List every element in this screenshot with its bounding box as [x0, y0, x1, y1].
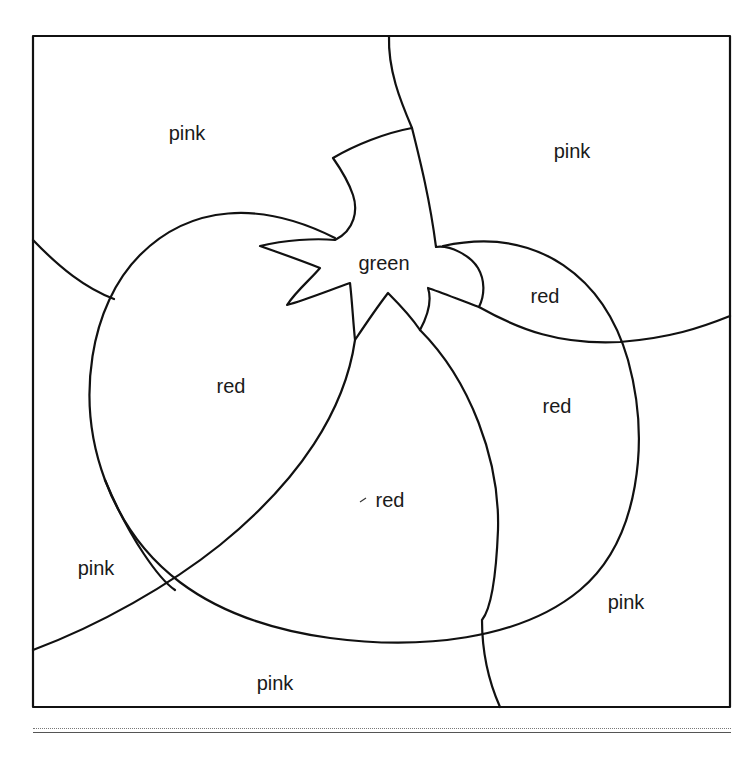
dotted-rule	[33, 728, 731, 729]
stem-calyx	[260, 128, 483, 340]
coloring-page: pink pink green red red red red pink pin…	[0, 0, 741, 767]
solid-rule	[33, 732, 731, 733]
top-divider	[389, 36, 412, 128]
stray-mark	[360, 498, 366, 502]
right-upper-divider	[479, 307, 730, 342]
right-lobe-divider	[420, 330, 500, 707]
region-label-pink-bottom: pink	[257, 672, 294, 695]
left-lobe-divider	[33, 340, 355, 650]
region-label-pink-bottom-left: pink	[78, 557, 115, 580]
tomato-line-art	[0, 0, 741, 767]
region-label-green-stem: green	[358, 252, 409, 275]
region-label-red-left: red	[217, 375, 246, 398]
bottom-left-arc	[105, 480, 175, 590]
region-label-red-right: red	[543, 395, 572, 418]
region-label-pink-top-left: pink	[169, 122, 206, 145]
region-label-pink-bottom-right: pink	[608, 591, 645, 614]
tomato-outline	[90, 213, 639, 643]
region-label-pink-top-right: pink	[554, 140, 591, 163]
region-label-red-center: red	[376, 489, 405, 512]
region-label-red-top-right: red	[531, 285, 560, 308]
left-upper-divider	[33, 240, 114, 299]
